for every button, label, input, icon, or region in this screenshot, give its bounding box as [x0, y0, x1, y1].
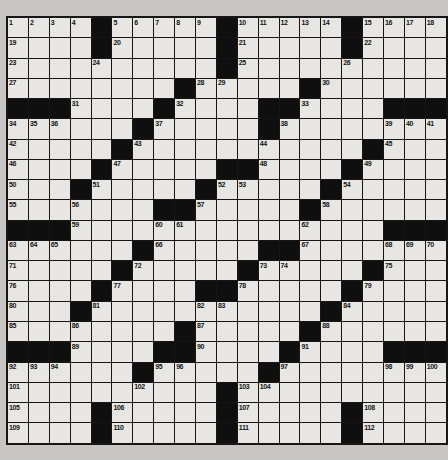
white-cell[interactable]: 5	[112, 18, 132, 37]
white-cell[interactable]	[342, 322, 362, 341]
white-cell[interactable]	[238, 241, 258, 260]
white-cell[interactable]: 18	[426, 18, 446, 37]
white-cell[interactable]: 83	[217, 302, 237, 321]
white-cell[interactable]: 43	[133, 140, 153, 159]
white-cell[interactable]	[300, 38, 320, 57]
white-cell[interactable]	[238, 322, 258, 341]
white-cell[interactable]	[133, 59, 153, 78]
white-cell[interactable]	[426, 261, 446, 280]
white-cell[interactable]	[280, 281, 300, 300]
white-cell[interactable]	[133, 38, 153, 57]
white-cell[interactable]	[112, 79, 132, 98]
white-cell[interactable]	[154, 403, 174, 422]
white-cell[interactable]	[405, 322, 425, 341]
white-cell[interactable]: 81	[92, 302, 112, 321]
white-cell[interactable]	[175, 241, 195, 260]
white-cell[interactable]	[426, 140, 446, 159]
white-cell[interactable]	[71, 79, 91, 98]
white-cell[interactable]	[259, 281, 279, 300]
white-cell[interactable]	[133, 221, 153, 240]
white-cell[interactable]	[154, 423, 174, 442]
white-cell[interactable]: 77	[112, 281, 132, 300]
white-cell[interactable]: 14	[321, 18, 341, 37]
white-cell[interactable]	[133, 423, 153, 442]
white-cell[interactable]: 105	[8, 403, 28, 422]
white-cell[interactable]: 41	[426, 119, 446, 138]
white-cell[interactable]	[112, 363, 132, 382]
white-cell[interactable]: 102	[133, 383, 153, 402]
white-cell[interactable]: 13	[300, 18, 320, 37]
white-cell[interactable]	[29, 38, 49, 57]
white-cell[interactable]: 78	[238, 281, 258, 300]
white-cell[interactable]	[280, 160, 300, 179]
white-cell[interactable]	[405, 302, 425, 321]
white-cell[interactable]	[112, 221, 132, 240]
white-cell[interactable]: 31	[71, 99, 91, 118]
white-cell[interactable]	[29, 79, 49, 98]
white-cell[interactable]: 47	[112, 160, 132, 179]
white-cell[interactable]	[342, 261, 362, 280]
white-cell[interactable]	[384, 200, 404, 219]
white-cell[interactable]	[405, 140, 425, 159]
white-cell[interactable]	[133, 302, 153, 321]
white-cell[interactable]: 37	[154, 119, 174, 138]
white-cell[interactable]: 29	[217, 79, 237, 98]
white-cell[interactable]: 2	[29, 18, 49, 37]
white-cell[interactable]	[196, 140, 216, 159]
white-cell[interactable]: 44	[259, 140, 279, 159]
white-cell[interactable]	[321, 423, 341, 442]
white-cell[interactable]: 108	[363, 403, 383, 422]
white-cell[interactable]: 82	[196, 302, 216, 321]
white-cell[interactable]: 30	[321, 79, 341, 98]
white-cell[interactable]: 68	[384, 241, 404, 260]
white-cell[interactable]	[342, 383, 362, 402]
white-cell[interactable]	[29, 383, 49, 402]
white-cell[interactable]	[238, 363, 258, 382]
white-cell[interactable]	[342, 140, 362, 159]
white-cell[interactable]: 69	[405, 241, 425, 260]
white-cell[interactable]	[112, 119, 132, 138]
white-cell[interactable]	[300, 180, 320, 199]
white-cell[interactable]	[154, 261, 174, 280]
white-cell[interactable]	[217, 200, 237, 219]
white-cell[interactable]	[112, 342, 132, 361]
white-cell[interactable]	[321, 99, 341, 118]
white-cell[interactable]	[175, 59, 195, 78]
white-cell[interactable]: 107	[238, 403, 258, 422]
white-cell[interactable]	[300, 403, 320, 422]
white-cell[interactable]: 9	[196, 18, 216, 37]
white-cell[interactable]	[92, 79, 112, 98]
white-cell[interactable]	[154, 383, 174, 402]
white-cell[interactable]: 99	[405, 363, 425, 382]
white-cell[interactable]	[92, 322, 112, 341]
white-cell[interactable]	[133, 99, 153, 118]
white-cell[interactable]	[92, 383, 112, 402]
white-cell[interactable]	[112, 200, 132, 219]
white-cell[interactable]	[112, 302, 132, 321]
white-cell[interactable]	[92, 99, 112, 118]
white-cell[interactable]: 58	[321, 200, 341, 219]
white-cell[interactable]: 27	[8, 79, 28, 98]
white-cell[interactable]	[259, 221, 279, 240]
white-cell[interactable]	[217, 363, 237, 382]
white-cell[interactable]	[405, 160, 425, 179]
white-cell[interactable]	[384, 59, 404, 78]
white-cell[interactable]	[321, 403, 341, 422]
white-cell[interactable]: 60	[154, 221, 174, 240]
white-cell[interactable]	[29, 59, 49, 78]
white-cell[interactable]	[50, 423, 70, 442]
white-cell[interactable]	[426, 200, 446, 219]
white-cell[interactable]: 111	[238, 423, 258, 442]
white-cell[interactable]	[29, 302, 49, 321]
white-cell[interactable]: 33	[300, 99, 320, 118]
white-cell[interactable]	[426, 59, 446, 78]
white-cell[interactable]	[300, 59, 320, 78]
white-cell[interactable]: 3	[50, 18, 70, 37]
white-cell[interactable]	[384, 302, 404, 321]
white-cell[interactable]	[363, 342, 383, 361]
white-cell[interactable]	[92, 363, 112, 382]
white-cell[interactable]: 62	[300, 221, 320, 240]
white-cell[interactable]	[154, 140, 174, 159]
white-cell[interactable]: 55	[8, 200, 28, 219]
white-cell[interactable]	[71, 403, 91, 422]
